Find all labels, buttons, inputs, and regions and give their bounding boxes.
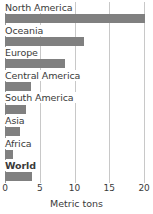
bar-label: Asia [5, 115, 27, 126]
bar-label: Central America [5, 70, 82, 81]
bar [5, 150, 13, 159]
x-axis-title: Metric tons [0, 198, 153, 210]
bar-label: Oceania [5, 25, 45, 36]
x-tick-label: 5 [37, 183, 43, 194]
bar-row: Europe [5, 47, 149, 70]
x-tick-label: 0 [2, 183, 8, 194]
bar [5, 14, 145, 23]
bar [5, 172, 32, 181]
bar-label: South America [5, 92, 76, 103]
bar-row: World [5, 160, 149, 183]
bar [5, 59, 65, 68]
bar [5, 37, 84, 46]
bar [5, 82, 31, 91]
bar [5, 127, 20, 136]
bar-label: Europe [5, 47, 40, 58]
plot-area: North AmericaOceaniaEuropeCentral Americ… [5, 2, 149, 183]
bar-chart: North AmericaOceaniaEuropeCentral Americ… [0, 0, 153, 214]
bar-row: Asia [5, 115, 149, 138]
x-axis: 05101520 [5, 183, 149, 197]
x-tick-label: 15 [104, 183, 115, 194]
bar-label: North America [5, 2, 74, 13]
bar-label: World [5, 160, 38, 171]
bar-row: South America [5, 92, 149, 115]
bar-label: Africa [5, 138, 34, 149]
x-tick-label: 10 [69, 183, 80, 194]
bars-layer: North AmericaOceaniaEuropeCentral Americ… [5, 2, 149, 183]
bar-row: Africa [5, 138, 149, 161]
bar [5, 105, 26, 114]
bar-row: North America [5, 2, 149, 25]
bar-row: Oceania [5, 25, 149, 48]
bar-row: Central America [5, 70, 149, 93]
x-tick-label: 20 [138, 183, 149, 194]
